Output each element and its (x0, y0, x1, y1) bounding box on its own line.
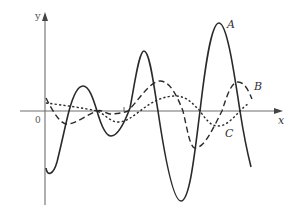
y-axis-arrow-icon (42, 12, 48, 21)
y-axis-label: y (34, 10, 41, 21)
x-axis-label: x (278, 114, 285, 127)
origin-label: 0 (35, 115, 41, 125)
curve-b-label: B (253, 80, 262, 93)
curve-a (46, 23, 251, 201)
curve-c-label: C (225, 127, 234, 140)
curve-a-label: A (226, 18, 235, 31)
function-graph: y x 0 A B C (0, 0, 298, 216)
